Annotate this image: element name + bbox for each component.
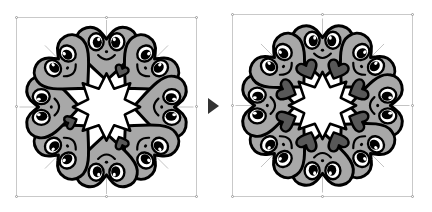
nose (321, 159, 324, 162)
resize-handle-w[interactable] (231, 104, 234, 107)
eye-pupil (309, 165, 318, 176)
eye-highlight (113, 37, 116, 41)
eye-pupil (111, 37, 120, 48)
resize-handle-sw[interactable] (15, 195, 18, 198)
center-star-negative-space (289, 72, 356, 139)
selection-frame-before[interactable] (16, 17, 197, 197)
eye-highlight (388, 96, 392, 99)
nose (160, 105, 163, 108)
resize-handle-se[interactable] (195, 195, 198, 198)
eye-highlight (253, 112, 257, 115)
eye-highlight (97, 37, 100, 41)
center-star-negative-space (73, 73, 140, 140)
resize-handle-w[interactable] (15, 105, 18, 108)
resize-handle-e[interactable] (411, 104, 414, 107)
eye-highlight (37, 98, 41, 101)
nose (105, 161, 108, 164)
eye-highlight (313, 171, 316, 175)
eye-pupil (36, 112, 47, 121)
eye-pupil (93, 166, 102, 177)
nose (50, 105, 53, 108)
nose (376, 104, 379, 107)
eye-pupil (382, 92, 393, 101)
transition-arrow-icon (208, 98, 219, 114)
resize-handle-sw[interactable] (231, 195, 234, 198)
resize-handle-nw[interactable] (231, 13, 234, 16)
eye-pupil (166, 93, 177, 102)
eye-highlight (37, 113, 41, 116)
artwork-after[interactable] (233, 15, 412, 196)
artwork-before[interactable] (17, 18, 196, 196)
eye-highlight (329, 36, 332, 40)
eye-highlight (97, 173, 100, 177)
eye-pupil (327, 35, 336, 46)
eye-pupil (36, 93, 47, 102)
eye-pupil (327, 165, 336, 176)
resize-handle-ne[interactable] (411, 13, 414, 16)
resize-handle-s[interactable] (105, 195, 108, 198)
eye-highlight (388, 112, 392, 115)
nose (266, 104, 269, 107)
resize-handle-e[interactable] (195, 105, 198, 108)
eye-pupil (111, 166, 120, 177)
selection-frame-after[interactable] (232, 14, 413, 197)
nose (321, 49, 324, 52)
eye-highlight (253, 96, 257, 99)
eye-pupil (309, 35, 318, 46)
eye-pupil (166, 112, 177, 121)
resize-handle-n[interactable] (105, 16, 108, 19)
eye-highlight (329, 171, 332, 175)
eye-pupil (382, 110, 393, 119)
eye-highlight (313, 36, 316, 40)
resize-handle-s[interactable] (321, 195, 324, 198)
resize-handle-ne[interactable] (195, 16, 198, 19)
eye-highlight (172, 113, 176, 116)
eye-pupil (252, 92, 263, 101)
resize-handle-n[interactable] (321, 13, 324, 16)
resize-handle-se[interactable] (411, 195, 414, 198)
nose (105, 50, 108, 53)
eye-pupil (93, 37, 102, 48)
comparison-stage (0, 0, 432, 212)
resize-handle-nw[interactable] (15, 16, 18, 19)
eye-highlight (113, 173, 116, 177)
eye-highlight (172, 98, 176, 101)
eye-pupil (252, 110, 263, 119)
